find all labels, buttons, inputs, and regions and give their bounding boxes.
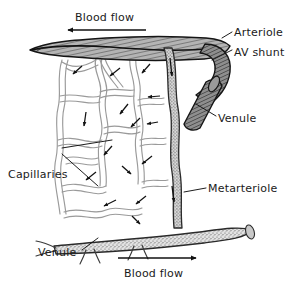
metarteriole-label: Metarteriole [208, 182, 277, 195]
venule-right-label: Venule [218, 112, 256, 125]
av-shunt-label: AV shunt [234, 46, 285, 59]
blood-flow-bottom-label: Blood flow [124, 267, 183, 280]
capillary-bed-diagram: Blood flow Blood flow Arteriole AV shunt… [0, 0, 286, 284]
blood-flow-top-label: Blood flow [75, 11, 134, 24]
capillaries-label: Capillaries [8, 168, 68, 181]
venule-bottom-label: Venule [38, 246, 76, 259]
arteriole-label: Arteriole [234, 26, 283, 39]
